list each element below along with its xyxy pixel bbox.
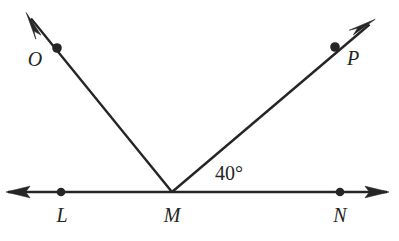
point-dot-L (57, 188, 66, 197)
ray-MO (26, 13, 172, 192)
arrowhead-upright-icon (349, 19, 375, 35)
point-dot-O (52, 43, 62, 53)
point-label-O: O (28, 49, 42, 69)
arrowhead-upleft-icon (26, 13, 41, 40)
point-label-L: L (56, 205, 67, 225)
point-label-N: N (333, 205, 346, 225)
point-dot-N (336, 188, 345, 197)
point-label-M: M (164, 205, 181, 225)
ray-MP (172, 19, 375, 192)
angle-measure-label: 40° (215, 163, 243, 183)
geometry-diagram: L M N O P 40° (0, 0, 399, 241)
point-label-P: P (347, 48, 359, 68)
point-dot-P (330, 42, 340, 52)
ray-segment-MO (31, 19, 172, 193)
ray-segment-MP (172, 25, 370, 193)
